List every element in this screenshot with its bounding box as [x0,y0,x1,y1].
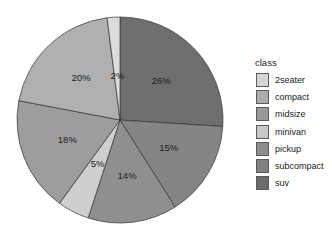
legend-key [256,90,269,104]
legend-key [256,125,269,139]
slice-label-2seater: 2% [110,70,124,81]
legend-label: subcompact [275,161,324,171]
slice-label-subcompact: 15% [159,142,179,153]
legend-item-pickup: pickup [254,140,324,157]
legend-key [256,176,269,190]
legend-label: suv [275,178,289,188]
legend-label: 2seater [275,75,305,85]
legend-key [256,159,269,173]
legend-key [256,142,269,156]
legend-item-minivan: minivan [254,123,324,140]
pie-slices [17,17,223,223]
legend-item-suv: suv [254,175,324,192]
slice-label-suv: 26% [152,75,172,86]
slice-label-compact: 20% [72,72,92,83]
legend-title: class [255,57,324,68]
legend-label: pickup [275,144,301,154]
legend-key [256,73,269,87]
legend-label: compact [275,92,309,102]
legend-item-compact: compact [254,88,324,105]
legend-item-2seater: 2seater [254,71,324,88]
pie-slice-suv [120,17,223,126]
legend-key [256,107,269,121]
legend: class 2seatercompactmidsizeminivanpickup… [254,57,324,192]
slice-label-midsize: 18% [58,134,78,145]
pie-chart: 26%15%14%5%18%20%2% [0,0,245,230]
slice-label-pickup: 14% [118,170,138,181]
legend-item-midsize: midsize [254,106,324,123]
legend-item-subcompact: subcompact [254,157,324,174]
legend-label: minivan [275,127,306,137]
legend-label: midsize [275,109,306,119]
slice-label-minivan: 5% [91,158,105,169]
